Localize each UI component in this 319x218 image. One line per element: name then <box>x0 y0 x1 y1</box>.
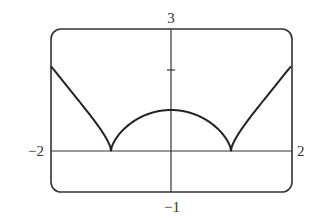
y-max-label: 3 <box>167 10 175 26</box>
x-min-label: −2 <box>28 143 44 159</box>
graph-canvas: 3 −1 −2 2 <box>0 0 319 218</box>
x-max-label: 2 <box>297 143 305 159</box>
y-min-label: −1 <box>164 199 180 215</box>
